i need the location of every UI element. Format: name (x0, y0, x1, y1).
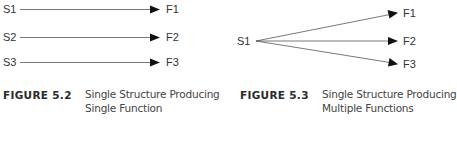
source-node-s3: S3 (3, 56, 16, 68)
function-node-f2: F2 (166, 31, 179, 43)
arrow-s3-f3 (20, 59, 160, 67)
arrow-s1-f1 (20, 6, 160, 14)
arrow-s1-f1-fan (256, 10, 398, 41)
function-node-f1: F1 (166, 3, 179, 15)
arrow-s2-f2 (20, 34, 160, 42)
arrow-s1-f3-fan (256, 41, 398, 67)
arrow-s1-f2-fan (256, 37, 398, 45)
figure-5-3-caption-line1: Single Structure Producing (322, 87, 457, 101)
function-node-f2-fan: F2 (403, 35, 416, 47)
diagrams-canvas (0, 0, 452, 80)
source-node-s2: S2 (3, 31, 16, 43)
cropped-text-fragment (108, 156, 118, 162)
figure-5-2-number: FIGURE 5.2 (3, 89, 72, 101)
source-node-s1-fan: S1 (237, 35, 250, 47)
figure-5-3-arrows (256, 10, 398, 67)
function-node-f3: F3 (166, 56, 179, 68)
figure-5-3-number: FIGURE 5.3 (240, 89, 309, 101)
figure-5-2-caption-line1: Single Structure Producing (85, 87, 220, 101)
function-node-f1-fan: F1 (403, 7, 416, 19)
source-node-s1: S1 (3, 3, 16, 15)
figure-5-3-caption-line2: Multiple Functions (322, 101, 414, 115)
figure-5-2-caption-line2: Single Function (85, 101, 162, 115)
function-node-f3-fan: F3 (403, 58, 416, 70)
figure-5-2-arrows (20, 6, 160, 67)
